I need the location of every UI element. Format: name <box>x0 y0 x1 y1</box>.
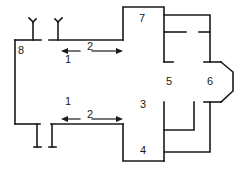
south-chapel-outer-wall <box>164 102 210 152</box>
label-7: 7 <box>139 13 145 24</box>
north-chapel-wall <box>164 15 210 62</box>
label-1-upper: 1 <box>65 54 71 65</box>
south-tower-post-left <box>34 124 41 147</box>
label-2-lower: 2 <box>87 109 93 120</box>
label-6: 6 <box>207 76 213 87</box>
north-tower-post-right <box>55 18 62 40</box>
apse-wall <box>221 62 233 102</box>
label-5: 5 <box>166 76 172 87</box>
label-3: 3 <box>140 99 146 110</box>
south-tower-post-right <box>49 124 56 147</box>
floor-plan-diagram: 2 1 2 1 8 7 5 6 3 4 <box>0 0 247 172</box>
label-8: 8 <box>18 45 24 56</box>
north-tower-post-left <box>29 18 36 40</box>
label-4: 4 <box>140 145 146 156</box>
label-1-lower: 1 <box>65 96 71 107</box>
south-chapel-inner-wall <box>164 102 194 130</box>
label-2-upper: 2 <box>87 41 93 52</box>
